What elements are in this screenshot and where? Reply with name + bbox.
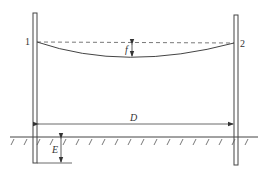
right-pole — [234, 15, 238, 165]
ground-hatching — [11, 139, 248, 145]
embed-label: E — [51, 144, 58, 155]
left-pole — [33, 13, 37, 163]
span-label: D — [129, 112, 138, 123]
sag-curve — [37, 42, 234, 57]
sag-label: f — [125, 44, 129, 55]
point-1-label: 1 — [25, 36, 30, 47]
sag-diagram: 1 2 f D E — [0, 0, 266, 171]
diagram-svg: 1 2 f D E — [0, 0, 266, 171]
point-2-label: 2 — [240, 38, 245, 49]
chord-dashed-line — [37, 42, 234, 43]
